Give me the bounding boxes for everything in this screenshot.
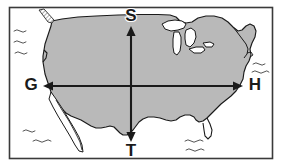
united-states-map: S T G H xyxy=(0,0,282,166)
lake-michigan xyxy=(173,32,181,55)
label-east: H xyxy=(249,75,261,94)
label-north: S xyxy=(125,6,136,25)
label-west: G xyxy=(24,75,37,94)
label-south: T xyxy=(126,141,137,160)
map-figure: S T G H xyxy=(0,0,282,166)
